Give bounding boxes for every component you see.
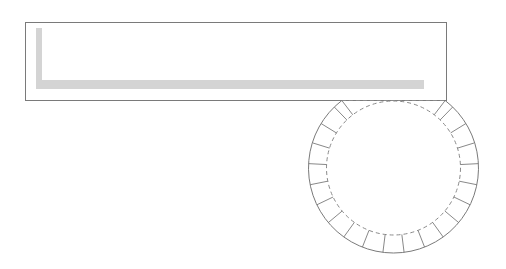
tab-divider [402,234,404,252]
tab-divider [460,164,478,165]
tab-divider [362,230,369,247]
tab-divider [321,124,336,133]
tab-divider [312,143,329,148]
tab-divider [342,101,353,115]
tab-divider [457,143,474,148]
tab-divider [310,181,328,185]
tab-divider [383,234,385,252]
base-circle-outer-edge [308,101,478,254]
tab-divider [317,197,333,205]
template-diagram [0,0,506,269]
tab-divider [434,101,445,115]
base-circle [308,101,478,254]
tab-divider [454,197,470,205]
tab-divider [433,222,444,237]
tab-divider [451,124,466,133]
tab-divider [440,107,453,120]
tab-divider [328,211,342,223]
tab-divider [459,181,477,185]
tab-divider [344,222,355,237]
tab-divider [309,164,327,165]
tab-divider [445,211,459,223]
glue-strip-vertical [36,28,42,89]
tab-divider [334,107,347,120]
glue-strip-horizontal [36,80,424,89]
base-circle-fold-line [327,101,461,235]
glue-strip [36,28,424,89]
tab-divider [418,230,425,247]
